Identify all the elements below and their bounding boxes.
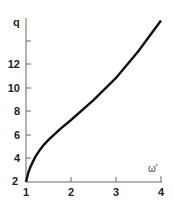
y-tick-label: 8 bbox=[14, 105, 20, 117]
x-tick-label: 2 bbox=[68, 186, 74, 198]
y-axis-label: q bbox=[13, 16, 20, 28]
y-tick-label: 10 bbox=[8, 82, 20, 94]
data-curve bbox=[26, 21, 161, 183]
y-tick-label: 6 bbox=[14, 129, 20, 141]
x-ticks bbox=[71, 176, 161, 182]
x-tick-label: 4 bbox=[158, 186, 165, 198]
x-axis-label: ω' bbox=[148, 163, 158, 174]
y-tick-label: 12 bbox=[8, 58, 20, 70]
x-tick-label: 3 bbox=[113, 186, 119, 198]
y-tick-label: 4 bbox=[14, 152, 21, 164]
y-ticks bbox=[26, 41, 31, 158]
x-tick-label: 1 bbox=[23, 186, 29, 198]
y-tick-label: 2 bbox=[12, 175, 18, 187]
chart: q 2 4 6 8 10 12 1 2 3 4 ω' bbox=[0, 0, 174, 212]
